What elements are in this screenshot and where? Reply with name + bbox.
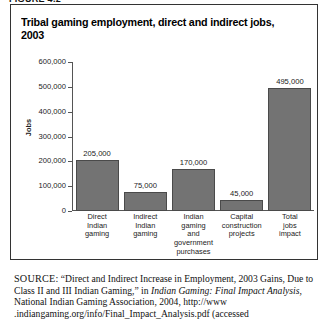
source-text-2: National Indian Gaming Association, 2004… <box>14 296 249 319</box>
bar-value-label: 45,000 <box>230 189 253 198</box>
y-axis-tick: 0 <box>11 211 72 212</box>
bar-series: 205,00075,000170,00045,000495,000 <box>73 62 314 211</box>
y-axis-tick: 600,000 <box>11 62 72 63</box>
y-axis-tick: 200,000 <box>11 161 72 162</box>
bar-group: 205,000 <box>73 62 121 211</box>
figure-box: Tribal gaming employment, direct and ind… <box>10 4 318 260</box>
y-axis-tick: 100,000 <box>11 186 72 187</box>
x-axis-category-label: Capitalconstructionprojects <box>218 213 266 239</box>
y-axis-tick-mark <box>68 211 72 212</box>
y-axis-tick-label: 600,000 <box>39 57 66 66</box>
x-axis-category-label: IndirectIndiangaming <box>121 213 169 239</box>
x-axis-category-label: Totaljobsimpact <box>266 213 314 239</box>
y-axis-tick-label: 500,000 <box>39 82 66 91</box>
bar-group: 170,000 <box>169 62 217 211</box>
chart-plot-area: Jobs 600,000500,000400,000300,000200,000… <box>11 5 319 261</box>
bar-value-label: 75,000 <box>134 181 157 190</box>
y-axis-tick: 400,000 <box>11 112 72 113</box>
bar[interactable] <box>124 192 167 211</box>
x-axis-category-line: impact <box>266 230 314 239</box>
source-title-italic: Indian Gaming: Final Impact Analysis, <box>151 285 302 296</box>
bar-value-label: 205,000 <box>83 149 110 158</box>
bar[interactable] <box>76 160 119 211</box>
y-axis-tick-label: 300,000 <box>39 132 66 141</box>
x-axis-category-label: Indiangamingandgovernmentpurchases <box>169 213 217 257</box>
x-axis-category-line: projects <box>218 230 266 239</box>
bar-group: 495,000 <box>266 62 314 211</box>
x-axis-category-line: gaming <box>73 230 121 239</box>
y-axis-tick-label: 200,000 <box>39 156 66 165</box>
y-axis-tick-label: 100,000 <box>39 181 66 190</box>
x-axis-category-line: gaming <box>121 230 169 239</box>
bar[interactable] <box>172 169 215 211</box>
bar-value-label: 170,000 <box>180 158 207 167</box>
x-axis-category-line: purchases <box>169 248 217 257</box>
y-axis-tick-label: 400,000 <box>39 107 66 116</box>
bar-group: 75,000 <box>121 62 169 211</box>
y-axis-tick: 300,000 <box>11 137 72 138</box>
bar-group: 45,000 <box>218 62 266 211</box>
y-axis-label: Jobs <box>24 98 33 158</box>
y-axis-tick-label: 0 <box>62 206 66 215</box>
x-axis-category-label: DirectIndiangaming <box>73 213 121 239</box>
source-note: SOURCE: “Direct and Indirect Increase in… <box>14 273 316 319</box>
bar-value-label: 495,000 <box>276 77 303 86</box>
bar[interactable] <box>220 200 263 211</box>
bar[interactable] <box>268 88 311 211</box>
y-axis-tick: 500,000 <box>11 87 72 88</box>
source-prefix: SOURCE: <box>14 273 58 284</box>
